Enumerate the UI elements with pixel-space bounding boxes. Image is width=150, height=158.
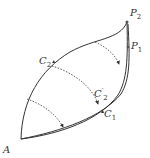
- label-c2-prime: C′2: [94, 88, 108, 102]
- point-p1: [127, 46, 130, 49]
- label-p2: P2: [130, 8, 141, 21]
- point-c2-arrow: [52, 60, 55, 63]
- dotted-arrow-2: [52, 66, 98, 104]
- point-p2: [126, 21, 129, 24]
- diagram-canvas: [0, 0, 150, 158]
- label-p1: P1: [131, 41, 142, 54]
- label-a: A: [3, 145, 10, 155]
- dotted-arrow-3: [27, 99, 63, 127]
- label-c1: C1: [104, 109, 116, 122]
- label-c2: C2: [39, 56, 51, 69]
- dotted-arrow-1: [95, 42, 119, 64]
